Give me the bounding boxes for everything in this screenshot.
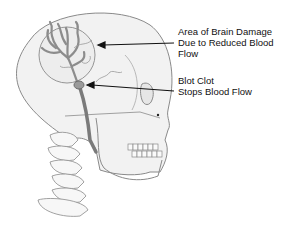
- label-brain-damage-line-3: Flow: [178, 48, 290, 59]
- nasal-mark: [157, 114, 159, 116]
- blood-clot: [74, 81, 84, 89]
- label-brain-damage-line-1: Area of Brain Damage: [178, 26, 290, 37]
- diagram-canvas: Area of Brain Damage Due to Reduced Bloo…: [0, 0, 291, 229]
- label-brain-damage: Area of Brain Damage Due to Reduced Bloo…: [178, 26, 290, 59]
- label-blood-clot: Blot Clot Stops Blood Flow: [178, 75, 290, 97]
- label-blood-clot-line-1: Blot Clot: [178, 75, 290, 86]
- cervical-spine: [38, 132, 88, 216]
- label-brain-damage-line-2: Due to Reduced Blood: [178, 37, 290, 48]
- eye-socket: [141, 83, 154, 104]
- label-blood-clot-line-2: Stops Blood Flow: [178, 86, 290, 97]
